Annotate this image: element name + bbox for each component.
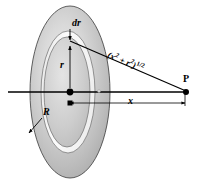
label-axial-distance: x — [128, 96, 133, 106]
label-disk-radius: R — [43, 107, 50, 117]
axis-reference-dot — [98, 90, 101, 93]
disk-center-dot — [67, 89, 74, 96]
dimension-origin-marker — [68, 101, 73, 106]
label-field-point: P — [183, 74, 189, 84]
label-ring-radius: r — [60, 60, 64, 70]
label-ring-thickness: dr — [72, 18, 81, 28]
physics-diagram-charged-disk: dr r R x P (x2 + r2)1/2 — [0, 0, 202, 185]
diagram-canvas — [0, 0, 202, 185]
